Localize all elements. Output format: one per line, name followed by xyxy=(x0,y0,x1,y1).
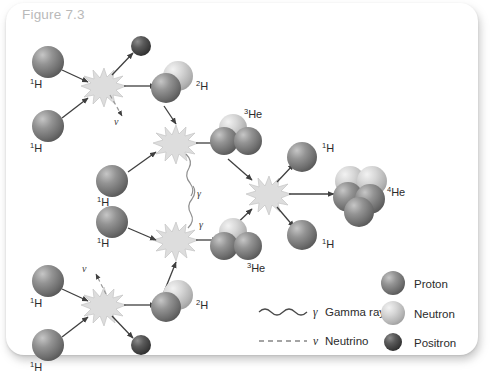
proton-h1-b xyxy=(32,110,64,142)
nucleus-4he xyxy=(333,166,387,227)
legend-proton-label: Proton xyxy=(414,278,448,290)
gamma-wave-lower xyxy=(188,186,195,228)
burst-upper-middle xyxy=(153,125,198,164)
label-he3-a: 3He xyxy=(244,107,262,121)
label-h1-g: 1H xyxy=(322,141,334,155)
nucleus-3he-upper xyxy=(210,114,262,155)
proton-3he-upper-1 xyxy=(210,127,238,155)
arrow-h1d-to-burst4 xyxy=(128,228,156,240)
arrow-h1b-to-burst1 xyxy=(62,98,88,118)
arrow-neutrino-bottom xyxy=(96,274,106,294)
symbol-gamma-upper: γ xyxy=(197,188,202,199)
legend-wavy-line-icon xyxy=(259,309,307,315)
burst-top-left xyxy=(81,68,126,107)
figure-stage: Figure 7.3 xyxy=(0,0,492,380)
symbol-neutrino-top: ν xyxy=(114,116,119,127)
label-h1-a: 1H xyxy=(30,77,42,91)
symbol-gamma-lower: γ xyxy=(199,219,204,230)
arrow-h1f-to-burst3 xyxy=(62,317,88,337)
arrow-final-to-h1h xyxy=(277,207,294,227)
arrow-h1c-to-burst2 xyxy=(128,152,156,172)
label-h2-b: 2H xyxy=(196,298,208,312)
proton-h1-a xyxy=(32,46,64,78)
label-he3-b: 3He xyxy=(247,261,265,275)
arrow-he3a-to-final xyxy=(228,159,252,180)
legend-neutrino: ν Neutrino xyxy=(259,335,368,347)
proton-3he-upper-2 xyxy=(234,127,262,155)
arrow-burst1-to-positron xyxy=(112,53,133,75)
label-h2-a: 2H xyxy=(196,79,208,93)
legend-positron: Positron xyxy=(384,333,456,351)
arrow-burst3-to-positron xyxy=(112,316,133,338)
legend-neutron-icon xyxy=(381,301,405,325)
symbol-neutrino-bottom: ν xyxy=(82,263,87,274)
legend-neutrino-label: Neutrino xyxy=(325,335,368,347)
legend-neutrino-symbol: ν xyxy=(313,335,319,347)
label-h1-d: 1H xyxy=(97,236,109,250)
label-h1-b: 1H xyxy=(30,141,42,155)
nucleus-2h-bottom xyxy=(151,280,193,322)
proton-h1-h xyxy=(287,220,317,250)
legend-proton-icon xyxy=(381,271,405,295)
label-h1-e: 1H xyxy=(30,296,42,310)
proton-h1-g xyxy=(287,142,317,172)
legend-gamma-label: Gamma ray xyxy=(325,306,385,318)
burst-lower-middle xyxy=(153,222,198,261)
proton-3he-lower-2 xyxy=(234,232,262,260)
proton-h1-f xyxy=(32,329,64,361)
arrow-neutrino-top xyxy=(110,95,122,116)
burst-final xyxy=(246,176,291,215)
legend-positron-label: Positron xyxy=(414,337,456,349)
proton-2h-bottom xyxy=(151,292,181,322)
proton-h1-e xyxy=(32,265,64,297)
label-h1-h: 1H xyxy=(322,237,334,251)
legend-neutron-label: Neutron xyxy=(414,308,455,320)
nucleus-3he-lower xyxy=(210,218,262,260)
label-h1-c: 1H xyxy=(97,195,109,209)
legend-neutron: Neutron xyxy=(381,301,455,325)
proton-h1-c xyxy=(96,165,128,197)
nucleus-2h-top xyxy=(151,61,193,103)
proton-h1-d xyxy=(96,206,128,238)
positron-bottom xyxy=(131,335,151,355)
pp-chain-diagram: 1H 1H 2H 1H 3He 1H 3He 1H 1H 2H 1H 1H 4H… xyxy=(0,0,492,380)
positron-top xyxy=(131,36,151,56)
proton-3he-lower-1 xyxy=(210,232,238,260)
label-h1-f: 1H xyxy=(30,360,42,374)
legend-gamma-symbol: γ xyxy=(313,306,318,319)
legend-proton: Proton xyxy=(381,271,448,295)
proton-2h-top xyxy=(151,73,181,103)
proton-4he-3 xyxy=(344,197,374,227)
legend-positron-icon xyxy=(384,333,402,351)
burst-bottom-left xyxy=(81,287,126,326)
arrow-h2a-to-burst2 xyxy=(164,106,176,124)
legend-gamma-ray: γ Gamma ray xyxy=(259,306,385,319)
label-he4: 4He xyxy=(387,185,405,199)
